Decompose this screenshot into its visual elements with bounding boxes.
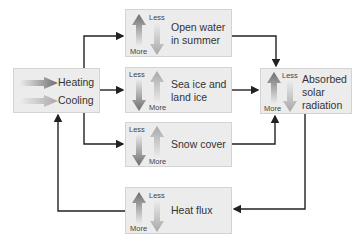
cooling-label: Cooling xyxy=(58,94,94,107)
heat-flux-label: Heat flux xyxy=(171,204,212,217)
open-water-box: Less More Open water in summer xyxy=(125,9,232,57)
open-water-label-2: in summer xyxy=(171,34,220,47)
cooling-arrow-icon xyxy=(20,95,58,107)
less-label: Less xyxy=(129,125,145,134)
less-down-arrow-icon xyxy=(150,200,164,232)
heating-arrow-icon xyxy=(20,77,58,89)
open-water-label: Open water xyxy=(171,21,225,34)
sea-ice-label-2: land ice xyxy=(171,91,207,104)
less-down-arrow-icon xyxy=(150,23,164,55)
less-label: Less xyxy=(149,13,165,22)
more-up-arrow-icon xyxy=(132,14,146,46)
absorbed-solar-radiation-box: Less More Absorbed solar radiation xyxy=(260,68,352,114)
sea-ice-label: Sea ice and xyxy=(171,78,226,91)
less-down-arrow-icon xyxy=(283,80,297,112)
heating-cooling-box: Heating Cooling xyxy=(13,68,100,113)
more-up-arrow-icon xyxy=(267,72,281,104)
more-down-arrow-icon xyxy=(132,134,146,166)
less-label: Less xyxy=(149,191,165,200)
heating-label: Heating xyxy=(58,76,94,89)
absorbed-label: Absorbed xyxy=(302,73,347,86)
less-label: Less xyxy=(129,70,145,79)
solar-label: solar xyxy=(302,86,325,99)
less-up-arrow-icon xyxy=(150,71,164,103)
snow-cover-box: Less More Snow cover xyxy=(125,122,232,167)
heat-flux-box: Less More Heat flux xyxy=(125,187,232,234)
more-label: More xyxy=(149,103,166,112)
less-up-arrow-icon xyxy=(150,126,164,158)
more-label: More xyxy=(130,224,147,233)
more-down-arrow-icon xyxy=(132,79,146,111)
more-label: More xyxy=(264,104,281,113)
more-label: More xyxy=(149,157,166,166)
radiation-label: radiation xyxy=(302,99,342,112)
snow-cover-label: Snow cover xyxy=(171,138,226,151)
less-label: Less xyxy=(282,71,298,80)
sea-ice-box: Less More Sea ice and land ice xyxy=(125,67,232,113)
more-up-arrow-icon xyxy=(132,192,146,224)
more-label: More xyxy=(130,47,147,56)
